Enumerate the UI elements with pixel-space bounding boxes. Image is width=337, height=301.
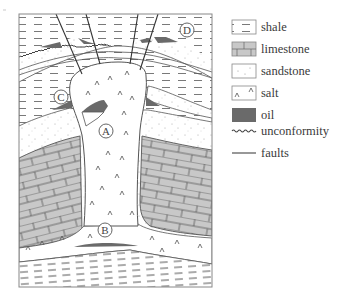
legend-item-limestone: limestone [232,42,310,56]
sandstone-swatch-icon [232,64,256,78]
shale-swatch-icon [232,20,256,34]
legend-item-shale: shale [232,20,287,34]
limestone-right [140,136,212,236]
label-A: A [99,124,113,138]
svg-text:A: A [102,125,110,137]
cross-section [19,14,212,287]
legend-item-unconformity: unconformity [232,124,330,138]
label-D: D [180,23,194,37]
salt-dome-diagram: A B C D shale limestone sandsto [0,0,337,301]
label-B: B [98,223,112,237]
svg-text:B: B [101,224,108,236]
legend-item-faults: faults [232,146,289,160]
svg-text:C: C [57,91,64,103]
svg-text:D: D [183,24,191,36]
legend: shale limestone sandstone salt oil [232,20,330,160]
oil-swatch-icon [232,108,256,122]
svg-text:unconformity: unconformity [261,124,330,138]
legend-item-salt: salt [232,86,279,100]
wavy-line-icon [232,130,256,132]
legend-item-sandstone: sandstone [232,64,311,78]
label-C: C [54,90,68,104]
svg-text:faults: faults [261,146,289,160]
svg-text:sandstone: sandstone [261,64,311,78]
svg-text:shale: shale [261,20,287,34]
svg-text:oil: oil [261,108,275,122]
salt-swatch-icon [232,86,256,100]
svg-text:limestone: limestone [261,42,310,56]
svg-text:salt: salt [261,86,279,100]
legend-item-oil: oil [232,108,275,122]
